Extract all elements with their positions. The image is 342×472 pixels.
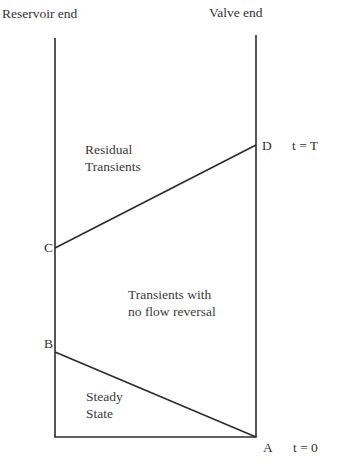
point-c-label: C bbox=[44, 240, 53, 256]
diagram-lines bbox=[0, 0, 342, 472]
point-a-label: A bbox=[263, 440, 273, 456]
reservoir-end-label: Reservoir end bbox=[2, 6, 77, 22]
diagram-canvas: Reservoir end Valve end D t = T C B A t … bbox=[0, 0, 342, 472]
valve-end-label: Valve end bbox=[209, 5, 263, 21]
residual-transients-label: Residual Transients bbox=[85, 141, 141, 175]
point-b-label: B bbox=[44, 336, 53, 352]
no-flow-reversal-label: Transients with no flow reversal bbox=[128, 286, 216, 320]
time-zero-label: t = 0 bbox=[293, 440, 318, 456]
point-d-label: D bbox=[262, 138, 272, 154]
time-t-label: t = T bbox=[292, 138, 318, 154]
caption-fragment bbox=[120, 462, 123, 472]
steady-state-label: Steady State bbox=[86, 388, 123, 422]
